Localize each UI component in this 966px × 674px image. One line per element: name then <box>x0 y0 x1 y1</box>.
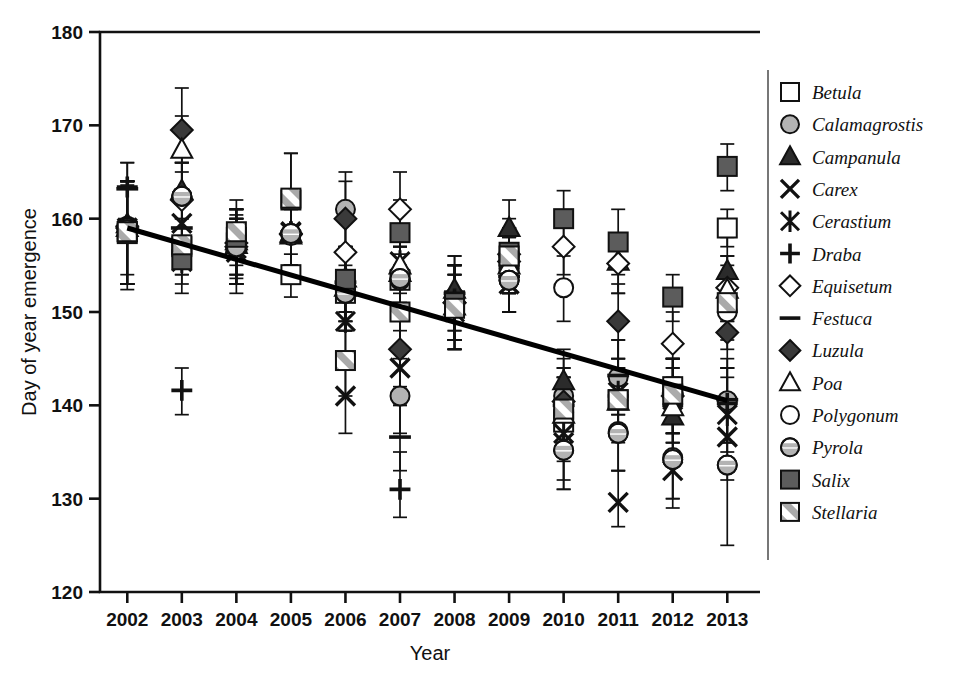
legend-item-salix[interactable]: Salix <box>781 470 851 491</box>
marker-circle-banded <box>281 224 300 243</box>
marker-circle-banded <box>500 271 519 290</box>
x-axis-tick-label: 2012 <box>652 609 694 630</box>
marker-square-hatched <box>609 390 628 409</box>
marker-square-filled <box>554 209 573 228</box>
marker-square-hatched <box>500 247 519 266</box>
y-axis-tick-label: 140 <box>51 395 83 416</box>
y-axis-tick-label: 160 <box>51 209 83 230</box>
marker-circle-open <box>781 406 799 424</box>
marker-square-hatched <box>554 400 573 419</box>
marker-circle-grey <box>781 115 799 133</box>
marker-circle-banded <box>781 438 799 456</box>
marker-square-filled <box>718 157 737 176</box>
legend-item-stellaria[interactable]: Stellaria <box>781 502 877 523</box>
legend-item-poa[interactable]: Poa <box>780 372 843 393</box>
x-axis-tick-label: 2008 <box>433 609 475 630</box>
x-axis-tick-label: 2003 <box>161 609 203 630</box>
marker-square-hatched <box>281 189 300 208</box>
y-axis-tick-label: 120 <box>51 582 83 603</box>
marker-square-hatched <box>445 299 464 318</box>
legend-label: Festuca <box>811 308 872 329</box>
marker-square-filled <box>663 288 682 307</box>
legend-label: Poa <box>811 373 843 394</box>
legend-label: Equisetum <box>811 276 892 297</box>
chart-figure: 1201301401501601701802002200320042005200… <box>0 0 966 674</box>
emergence-scatter-chart: 1201301401501601701802002200320042005200… <box>0 0 966 674</box>
legend-item-pyrola[interactable]: Pyrola <box>781 437 863 458</box>
x-axis-tick-label: 2002 <box>106 609 148 630</box>
marker-circle-banded <box>663 450 682 469</box>
marker-circle-open <box>554 278 573 297</box>
y-axis-tick-label: 180 <box>51 22 83 43</box>
legend-label: Betula <box>812 82 862 103</box>
marker-circle-banded <box>609 424 628 443</box>
legend-label: Stellaria <box>812 502 877 523</box>
x-axis-tick-label: 2011 <box>598 609 640 630</box>
marker-circle-banded <box>391 269 410 288</box>
marker-circle-grey <box>391 387 410 406</box>
y-axis-tick-label: 170 <box>51 115 83 136</box>
marker-circle-banded <box>718 456 737 475</box>
legend-item-betula[interactable]: Betula <box>781 82 862 103</box>
x-axis-title: Year <box>410 642 451 664</box>
x-axis-tick-label: 2006 <box>324 609 366 630</box>
marker-square-hatched <box>336 351 355 370</box>
y-axis-title: Day of year emergence <box>18 208 40 416</box>
legend-label: Carex <box>812 179 858 200</box>
marker-square-hatched <box>718 293 737 312</box>
legend-label: Calamagrostis <box>812 114 923 135</box>
legend-label: Polygonum <box>811 405 899 426</box>
x-axis-tick-label: 2005 <box>270 609 313 630</box>
x-axis-tick-label: 2013 <box>706 609 748 630</box>
x-axis-tick-label: 2010 <box>542 609 584 630</box>
legend-label: Draba <box>811 244 862 265</box>
marker-square-hatched <box>781 503 799 521</box>
marker-square-open <box>718 219 737 238</box>
y-axis-tick-label: 150 <box>51 302 83 323</box>
legend-label: Luzula <box>811 340 864 361</box>
marker-square-filled <box>609 233 628 252</box>
x-axis-tick-label: 2009 <box>488 609 530 630</box>
marker-square-open <box>781 83 799 101</box>
legend-label: Pyrola <box>811 437 863 458</box>
x-axis-tick-label: 2007 <box>379 609 421 630</box>
marker-square-filled <box>391 223 410 242</box>
marker-square-filled <box>336 270 355 289</box>
legend-item-luzula[interactable]: Luzula <box>780 340 864 361</box>
marker-circle-banded <box>172 187 191 206</box>
marker-square-filled <box>781 471 799 489</box>
legend-label: Salix <box>812 470 851 491</box>
legend-label: Cerastium <box>812 211 891 232</box>
legend-label: Campanula <box>812 147 901 168</box>
y-axis-tick-label: 130 <box>51 489 83 510</box>
x-axis-tick-label: 2004 <box>215 609 258 630</box>
marker-circle-banded <box>554 441 573 460</box>
marker-square-hatched <box>227 222 246 241</box>
